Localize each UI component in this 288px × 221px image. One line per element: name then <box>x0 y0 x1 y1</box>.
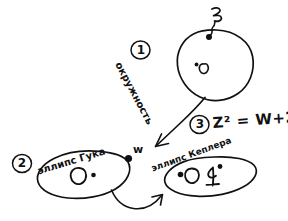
kepler-second-glyph <box>207 168 220 186</box>
step-marker-2-label: 2 <box>16 155 28 171</box>
kepler-focus-dot <box>178 172 184 178</box>
label-z-glyph <box>212 8 221 22</box>
kepler-center-o-glyph <box>185 168 199 183</box>
z-leader-squiggle <box>210 21 216 35</box>
hooke-center-o-glyph <box>71 168 86 184</box>
step-marker-3-label: 3 <box>194 116 206 132</box>
hooke-to-kepler-arrow-group <box>112 190 163 209</box>
circle-shape-group <box>177 21 253 101</box>
hooke-point-w-dot <box>125 155 132 162</box>
circle-center-o-glyph <box>199 64 208 74</box>
circle-shape <box>177 30 253 101</box>
hooke-focus-dot <box>91 173 96 178</box>
diagram-canvas: 1 2 3 окружность эллипс Гука эллипс Кепл… <box>0 0 288 221</box>
circle-center-dot <box>195 63 199 67</box>
point-w-label: w <box>133 143 143 156</box>
hooke-to-kepler-arrow-shaft <box>112 190 162 209</box>
label-z-glyph-group <box>212 8 221 22</box>
step-marker-1-label: 1 <box>135 42 147 58</box>
kepler-second-dot <box>218 164 223 169</box>
